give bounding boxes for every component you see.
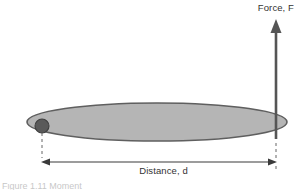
distance-label: Distance, d [0, 165, 299, 176]
moment-of-force-diagram: Force, F Distance, d Figure 1.11 Moment [0, 0, 299, 190]
diagram-canvas [0, 0, 299, 190]
figure-caption-text: Figure 1.11 Moment [2, 183, 82, 190]
force-label: Force, F [258, 2, 294, 13]
force-arrow-head [271, 19, 282, 33]
lever-ellipse [27, 103, 287, 141]
pivot-circle [35, 119, 49, 133]
figure-caption-clipped: Figure 1.11 Moment [0, 183, 299, 190]
